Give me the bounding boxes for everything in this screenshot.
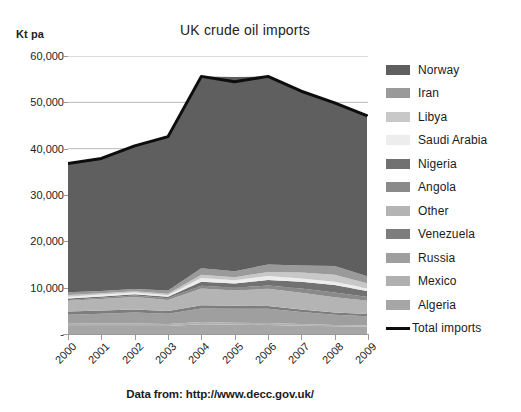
legend-item-label: Russia <box>418 251 455 265</box>
x-tick-label: 2009 <box>345 340 379 374</box>
legend-item[interactable]: Russia <box>386 246 518 270</box>
stacked-area-plot <box>68 56 368 334</box>
legend-item-label: Angola <box>418 180 456 194</box>
legend-item[interactable]: Libya <box>386 105 518 129</box>
x-tick-label: 2006 <box>245 340 279 374</box>
legend-color-swatch <box>386 253 410 263</box>
x-tick-label: 2008 <box>311 340 345 374</box>
y-axis-labels: 60,00050,00040,00030,00020,00010,000- <box>8 48 64 344</box>
legend-item-label: Other <box>418 204 449 218</box>
legend-item[interactable]: Total imports <box>386 317 518 341</box>
y-axis-unit-label: Kt pa <box>16 28 44 40</box>
legend-color-swatch <box>386 276 410 286</box>
chart-legend: NorwayIranLibyaSaudi ArabiaNigeriaAngola… <box>386 58 518 340</box>
legend-item[interactable]: Iran <box>386 82 518 106</box>
y-tick-label: 20,000 <box>8 235 64 247</box>
source-caption: Data from: http://www.decc.gov.uk/ <box>60 388 380 400</box>
chart-container: Kt pa UK crude oil imports 60,00050,0004… <box>0 0 521 412</box>
x-tick-label: 2007 <box>278 340 312 374</box>
y-tick-label: 30,000 <box>8 189 64 201</box>
legend-item[interactable]: Angola <box>386 176 518 200</box>
x-tick-label: 2003 <box>145 340 179 374</box>
legend-item-label: Norway <box>418 63 459 77</box>
legend-item-label: Libya <box>418 110 447 124</box>
legend-item[interactable]: Nigeria <box>386 152 518 176</box>
legend-color-swatch <box>386 182 410 192</box>
legend-color-swatch <box>386 65 410 75</box>
x-axis-line <box>68 334 369 335</box>
legend-color-swatch <box>386 88 410 98</box>
y-tick-label: 40,000 <box>8 143 64 155</box>
legend-line-swatch <box>386 327 410 330</box>
legend-color-swatch <box>386 300 410 310</box>
x-axis-labels: 2000200120022003200420052006200720082009 <box>0 340 400 386</box>
legend-item-label: Iran <box>418 86 439 100</box>
legend-item[interactable]: Mexico <box>386 270 518 294</box>
legend-item-label: Nigeria <box>418 157 457 171</box>
legend-item-label: Venezuela <box>418 227 475 241</box>
y-tick-label: - <box>8 328 64 340</box>
legend-item[interactable]: Norway <box>386 58 518 82</box>
x-tick-label: 2000 <box>45 340 79 374</box>
legend-color-swatch <box>386 206 410 216</box>
x-tick-label: 2002 <box>111 340 145 374</box>
plot-area <box>68 56 368 334</box>
chart-title: UK crude oil imports <box>120 22 370 38</box>
legend-item-label: Saudi Arabia <box>418 133 487 147</box>
y-tick-label: 60,000 <box>8 50 64 62</box>
legend-color-swatch <box>386 135 410 145</box>
legend-item[interactable]: Other <box>386 199 518 223</box>
x-tick-label: 2005 <box>211 340 245 374</box>
legend-color-swatch <box>386 112 410 122</box>
legend-item[interactable]: Venezuela <box>386 223 518 247</box>
legend-item-label: Algeria <box>418 298 456 312</box>
legend-item-label: Mexico <box>418 274 457 288</box>
x-tick-label: 2004 <box>178 340 212 374</box>
x-tick-label: 2001 <box>78 340 112 374</box>
legend-color-swatch <box>386 159 410 169</box>
legend-color-swatch <box>386 229 410 239</box>
y-tick-label: 50,000 <box>8 96 64 108</box>
y-tick-label: 10,000 <box>8 282 64 294</box>
legend-item[interactable]: Saudi Arabia <box>386 129 518 153</box>
legend-item[interactable]: Algeria <box>386 293 518 317</box>
legend-item-label: Total imports <box>412 321 481 335</box>
area-band <box>68 76 368 292</box>
